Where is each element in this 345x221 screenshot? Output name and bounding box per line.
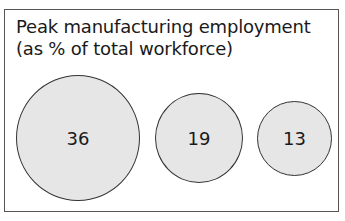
bubble-label: 13 [283, 128, 306, 149]
chart-title: Peak manufacturing employment (as % of t… [16, 16, 311, 60]
bubble-label: 36 [67, 128, 90, 149]
bubble-label: 19 [188, 128, 211, 149]
bubble-19: 19 [155, 93, 243, 183]
bubble-13: 13 [257, 101, 332, 176]
chart-title-line1: Peak manufacturing employment [16, 16, 311, 38]
bubble-36: 36 [16, 75, 140, 201]
chart-title-line2: (as % of total workforce) [16, 38, 311, 60]
